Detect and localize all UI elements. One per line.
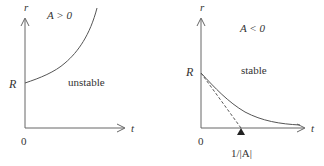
left-panel: r A > 0 R unstable t 0 (8, 1, 135, 147)
left-y-axis-label: r (24, 1, 29, 13)
right-y-axis-label: r (200, 1, 205, 13)
left-condition-label: A > 0 (46, 9, 72, 21)
right-intercept-label: R (185, 65, 194, 79)
right-tangent-line (201, 73, 241, 128)
stability-diagram: r A > 0 R unstable t 0 r A < 0 R stable … (0, 0, 324, 166)
left-x-axis-label: t (131, 122, 135, 134)
right-panel: r A < 0 R stable t 0 1/|A| (185, 1, 315, 159)
left-origin-label: 0 (21, 135, 27, 147)
right-x-axis-label: t (311, 122, 315, 134)
left-region-label: unstable (68, 76, 105, 88)
right-region-label: stable (241, 64, 267, 76)
time-constant-label: 1/|A| (231, 147, 252, 159)
right-origin-label: 0 (198, 135, 204, 147)
right-decay-curve (201, 73, 300, 125)
left-intercept-label: R (8, 77, 17, 91)
right-condition-label: A < 0 (239, 22, 265, 34)
time-constant-marker-icon (237, 128, 245, 135)
